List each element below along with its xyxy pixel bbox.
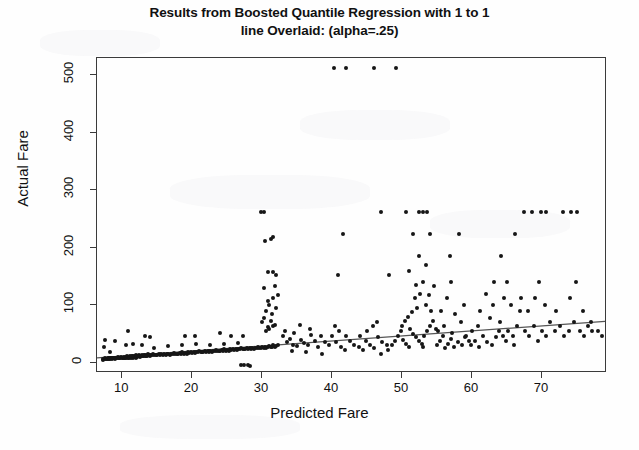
data-point — [586, 324, 590, 328]
data-point — [143, 334, 147, 338]
data-point — [505, 280, 509, 284]
data-point — [264, 309, 268, 313]
data-point — [449, 337, 453, 341]
x-axis-tick — [401, 372, 402, 378]
data-point — [477, 345, 481, 349]
data-point — [441, 334, 445, 338]
data-point — [407, 269, 411, 273]
data-point — [344, 334, 348, 338]
data-point — [539, 210, 543, 214]
data-point — [448, 254, 452, 258]
data-point — [380, 340, 384, 344]
data-point — [536, 339, 540, 343]
data-point — [567, 329, 571, 333]
data-point — [365, 329, 369, 333]
data-point — [194, 342, 198, 346]
data-point — [502, 296, 506, 300]
data-point — [180, 343, 184, 347]
y-axis-tick-label: 0 — [36, 353, 80, 368]
one-to-one-overlay-line — [97, 58, 605, 371]
data-point — [497, 329, 501, 333]
data-point — [385, 343, 389, 347]
data-point — [421, 345, 425, 349]
data-point — [506, 329, 510, 333]
data-point — [568, 296, 572, 300]
data-point — [436, 329, 440, 333]
data-point — [445, 296, 449, 300]
data-point — [364, 339, 368, 343]
data-point — [193, 334, 197, 338]
x-axis-tick-label: 30 — [241, 380, 281, 395]
data-point — [438, 339, 442, 343]
y-axis-tick-label: 200 — [36, 238, 80, 253]
data-point — [494, 335, 498, 339]
data-point — [446, 342, 450, 346]
data-point — [581, 309, 585, 313]
data-point — [339, 345, 343, 349]
data-point — [281, 334, 285, 338]
data-point — [553, 329, 557, 333]
data-point — [582, 334, 586, 338]
data-point — [273, 323, 277, 327]
data-point — [262, 316, 266, 320]
data-point — [376, 335, 380, 339]
data-point — [393, 339, 397, 343]
data-point — [459, 320, 463, 324]
data-point — [266, 270, 270, 274]
data-point — [462, 303, 466, 307]
data-point — [442, 324, 446, 328]
data-point — [332, 66, 336, 70]
data-point — [515, 324, 519, 328]
data-point — [295, 344, 299, 348]
data-point — [320, 352, 324, 356]
data-point — [421, 280, 425, 284]
data-point — [589, 320, 593, 324]
data-point — [427, 293, 431, 297]
data-point — [309, 333, 313, 337]
data-point — [330, 334, 334, 338]
data-point — [544, 210, 548, 214]
data-point — [452, 345, 456, 349]
data-point — [504, 339, 508, 343]
data-point — [554, 309, 558, 313]
data-point — [408, 327, 412, 331]
data-point — [218, 331, 222, 335]
data-point — [236, 341, 240, 345]
data-point — [511, 334, 515, 338]
data-point — [561, 210, 565, 214]
x-axis-tick-label: 40 — [311, 380, 351, 395]
data-point — [341, 232, 345, 236]
data-point — [478, 309, 482, 313]
data-point — [540, 329, 544, 333]
data-point — [208, 343, 212, 347]
data-point — [492, 280, 496, 284]
data-point — [413, 296, 417, 300]
data-point — [108, 350, 112, 354]
chart-title: Results from Boosted Quantile Regression… — [0, 4, 639, 40]
data-point — [432, 284, 436, 288]
data-point — [399, 329, 403, 333]
data-point — [453, 312, 457, 316]
data-point — [304, 350, 308, 354]
data-point — [241, 334, 245, 338]
data-point — [484, 292, 488, 296]
data-point — [569, 210, 573, 214]
data-point — [306, 343, 310, 347]
data-point — [443, 346, 447, 350]
data-point — [263, 239, 267, 243]
data-point — [417, 254, 421, 258]
data-point — [410, 310, 414, 314]
data-point — [481, 334, 485, 338]
data-point — [102, 345, 106, 349]
data-point — [288, 337, 292, 341]
data-point — [460, 343, 464, 347]
data-point — [519, 296, 523, 300]
x-axis-tick-label: 10 — [101, 380, 141, 395]
data-point — [313, 339, 317, 343]
data-point — [491, 303, 495, 307]
data-point — [152, 346, 156, 350]
data-point — [183, 334, 187, 338]
scatter-plot-figure: Results from Boosted Quantile Regression… — [0, 0, 639, 450]
data-point — [222, 342, 226, 346]
data-point — [425, 329, 429, 333]
